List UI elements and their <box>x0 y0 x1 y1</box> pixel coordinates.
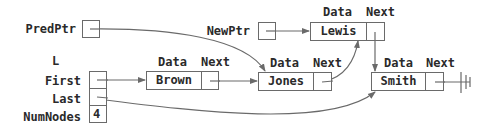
smith-next-header: Next <box>426 56 455 70</box>
numnodes-field: 4 <box>89 105 107 123</box>
brown-next-header: Next <box>201 55 230 69</box>
brown-data-header: Data <box>158 55 187 69</box>
newptr-box <box>258 22 276 40</box>
lewis-next-cell <box>366 22 385 41</box>
last-to-smith-arrow <box>97 92 375 114</box>
newptr-label: NewPtr <box>190 24 250 38</box>
list-header-label: L <box>52 54 59 68</box>
smith-data-header: Data <box>384 56 413 70</box>
last-field <box>89 88 107 106</box>
brown-next-cell <box>201 71 219 90</box>
predptr-box <box>82 20 100 38</box>
predptr-label: PredPtr <box>4 22 76 36</box>
numnodes-label: NumNodes <box>4 110 81 124</box>
jones-next-cell <box>313 72 332 91</box>
lewis-next-header: Next <box>366 5 395 19</box>
smith-data-cell: Smith <box>371 72 426 91</box>
first-label: First <box>4 74 81 88</box>
lewis-data-cell: Lewis <box>310 22 367 41</box>
null-terminator-icon <box>461 72 470 93</box>
first-field <box>89 71 107 89</box>
last-label: Last <box>4 92 81 106</box>
jones-data-cell: Jones <box>258 72 314 91</box>
smith-next-cell <box>425 72 444 91</box>
jones-next-header: Next <box>313 56 342 70</box>
jones-data-header: Data <box>270 56 299 70</box>
lewis-data-header: Data <box>323 5 352 19</box>
brown-data-cell: Brown <box>146 71 202 90</box>
